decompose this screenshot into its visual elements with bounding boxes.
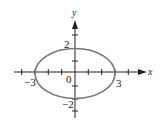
y-label-neg2: −2	[62, 98, 74, 110]
x-label-3: 3	[116, 77, 122, 89]
y-axis-arrow-icon	[72, 20, 78, 29]
y-label-2: 2	[64, 38, 70, 50]
y-axis-label: y	[71, 7, 77, 18]
x-label-neg3: −3	[24, 76, 36, 88]
x-axis-label: x	[147, 66, 153, 77]
origin-label: 0	[66, 73, 72, 85]
ellipse-diagram: y x 2 −2 −3 3 0	[0, 0, 160, 128]
x-axis-arrow-icon	[138, 69, 147, 75]
